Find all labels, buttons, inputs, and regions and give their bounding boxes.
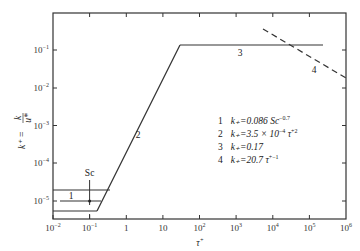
svg-text:103: 103	[230, 222, 242, 233]
svg-text:10: 10	[158, 223, 168, 233]
svg-text:10−3: 10−3	[34, 120, 49, 131]
svg-text:10−4: 10−4	[34, 157, 49, 168]
svg-text:1k₊=0.086 Sc−0.7: 1k₊=0.086 Sc−0.7	[218, 115, 290, 126]
x-tick-labels: 10−2 10−1 1 10 102 103 104 105 106	[45, 222, 352, 233]
curve-1-label: 1	[69, 191, 74, 201]
y-tick-labels: 10−1 10−2 10−3 10−4 10−5	[34, 44, 49, 206]
curve-1-lines	[53, 190, 110, 211]
svg-text:10−2: 10−2	[45, 222, 60, 233]
plot-frame	[53, 13, 346, 219]
svg-text:105: 105	[303, 222, 315, 233]
sc-label: Sc	[85, 168, 95, 178]
svg-text:4k₊=20.7 τ+−1: 4k₊=20.7 τ+−1	[218, 154, 279, 165]
curve-3-label: 3	[238, 48, 243, 58]
chart: 10−2 10−1 1 10 102 103 104 105 106 10−1 …	[0, 0, 360, 251]
svg-text:104: 104	[267, 222, 279, 233]
svg-text:10−2: 10−2	[34, 82, 49, 93]
svg-text:3k₊=0.17: 3k₊=0.17	[218, 142, 264, 152]
svg-text:102: 102	[194, 222, 206, 233]
svg-text:1: 1	[124, 223, 129, 233]
svg-text:10−1: 10−1	[34, 44, 49, 55]
svg-text:2k₊=3.5 × 10−4 τ+2: 2k₊=3.5 × 10−4 τ+2	[218, 128, 297, 139]
svg-text:u*: u*	[23, 113, 33, 123]
svg-text:10−1: 10−1	[82, 222, 97, 233]
legend: 1k₊=0.086 Sc−0.7 2k₊=3.5 × 10−4 τ+2 3k₊=…	[218, 115, 297, 165]
curve-2-line	[97, 45, 180, 211]
svg-text:k: k	[13, 115, 23, 120]
svg-text:106: 106	[340, 222, 352, 233]
y-axis-label: k⁺ = k u*	[13, 113, 33, 149]
curve-4-line	[263, 29, 346, 78]
svg-text:k⁺ =: k⁺ =	[17, 131, 27, 149]
sc-dot	[88, 200, 91, 203]
y-ticks	[53, 50, 346, 201]
x-axis-label: τ+	[196, 237, 203, 248]
svg-text:10−5: 10−5	[34, 195, 49, 206]
curve-4-label: 4	[312, 65, 317, 75]
curve-2-label: 2	[136, 130, 141, 140]
